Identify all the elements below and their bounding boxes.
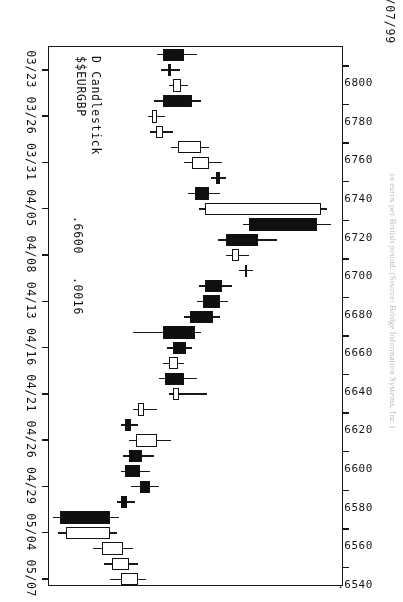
rotated-chart-container: 05/07/99 .6800.6780.6760.6740.6720.6700.… bbox=[0, 0, 403, 602]
candlestick-body bbox=[125, 419, 131, 431]
candlestick-body bbox=[102, 542, 123, 554]
date-tick bbox=[42, 393, 48, 394]
candlestick bbox=[157, 47, 197, 62]
date-tick-label: 04/05 bbox=[24, 189, 38, 227]
price-tick bbox=[343, 297, 349, 298]
price-tick bbox=[343, 490, 349, 491]
candlestick-body bbox=[216, 172, 220, 184]
date-tick bbox=[42, 254, 48, 255]
candlestick bbox=[199, 278, 233, 293]
price-tick bbox=[343, 451, 349, 452]
date-axis: 03/2303/2603/3104/0504/0804/1304/1604/21… bbox=[0, 46, 48, 586]
price-tick bbox=[343, 258, 349, 259]
date-tick bbox=[42, 486, 48, 487]
candlestick-body bbox=[66, 527, 110, 539]
candlestick bbox=[159, 371, 197, 386]
candlestick bbox=[53, 510, 118, 525]
candlestick-wick bbox=[148, 116, 165, 118]
candlestick bbox=[93, 541, 133, 556]
candlestick-body bbox=[205, 280, 222, 292]
candlestick-body bbox=[136, 434, 157, 446]
date-tick-label: 04/26 bbox=[24, 421, 38, 459]
price-tick bbox=[343, 220, 349, 221]
candlestick bbox=[211, 170, 226, 185]
instrument-legend: D Candlestick $$EURGBP bbox=[73, 56, 103, 155]
candlestick bbox=[199, 201, 328, 216]
date-tick-label: 04/29 bbox=[24, 467, 38, 505]
price-tick bbox=[343, 567, 349, 568]
candlestick bbox=[117, 494, 136, 509]
scanned-chart-page: 05/07/99 .6800.6780.6760.6740.6720.6700.… bbox=[0, 0, 403, 602]
date-tick bbox=[42, 578, 48, 579]
candlestick-body bbox=[163, 49, 184, 61]
candlestick bbox=[123, 448, 155, 463]
date-tick-label: 04/13 bbox=[24, 282, 38, 320]
candlestick bbox=[133, 325, 200, 340]
last-price-value: .6600 bbox=[71, 216, 85, 254]
date-tick-label: 04/21 bbox=[24, 374, 38, 412]
date-tick-label: 04/08 bbox=[24, 235, 38, 273]
candlestick-body bbox=[165, 373, 184, 385]
candlestick-body bbox=[152, 110, 156, 122]
candlestick bbox=[121, 417, 138, 432]
candlestick bbox=[243, 217, 332, 232]
price-tick bbox=[343, 181, 349, 182]
date-tick bbox=[42, 439, 48, 440]
candlestick bbox=[197, 294, 229, 309]
candlestick bbox=[131, 479, 158, 494]
candlestick-body bbox=[178, 141, 201, 153]
candlestick bbox=[58, 525, 117, 540]
candlestick bbox=[169, 386, 207, 401]
price-tick bbox=[343, 142, 349, 143]
date-tick bbox=[42, 301, 48, 302]
candlestick bbox=[104, 556, 138, 571]
candlestick bbox=[163, 356, 184, 371]
date-tick bbox=[42, 115, 48, 116]
candlestick bbox=[133, 402, 156, 417]
candlestick bbox=[218, 232, 277, 247]
date-tick bbox=[42, 208, 48, 209]
price-change-value: .0016 bbox=[71, 277, 85, 315]
legend-study-label: D Candlestick bbox=[88, 56, 103, 155]
candlestick bbox=[188, 186, 220, 201]
price-tick bbox=[343, 412, 349, 413]
date-tick-label: 05/07 bbox=[24, 559, 38, 597]
candlestick-body bbox=[129, 450, 142, 462]
date-tick-label: 03/31 bbox=[24, 143, 38, 181]
legend-symbol-label: $$EURGBP bbox=[73, 56, 88, 155]
price-tick bbox=[343, 374, 349, 375]
candlestick bbox=[148, 109, 165, 124]
candlestick-body bbox=[226, 234, 258, 246]
price-tick bbox=[343, 528, 349, 529]
price-tick bbox=[343, 65, 349, 66]
date-tick-label: 03/26 bbox=[24, 97, 38, 135]
price-tick bbox=[343, 335, 349, 336]
candlestick-body bbox=[190, 311, 213, 323]
candlestick-body bbox=[169, 357, 177, 369]
candlestick-body bbox=[121, 573, 138, 585]
candlestick-body bbox=[168, 64, 171, 76]
candlestick bbox=[161, 62, 180, 77]
candlestick bbox=[110, 572, 146, 587]
candlestick bbox=[150, 124, 173, 139]
candlestick-body bbox=[163, 95, 193, 107]
candlestick bbox=[167, 340, 192, 355]
price-tick bbox=[343, 104, 349, 105]
date-tick-label: 04/16 bbox=[24, 328, 38, 366]
candlestick bbox=[129, 433, 171, 448]
candlestick bbox=[239, 263, 254, 278]
date-tick bbox=[42, 69, 48, 70]
candlestick-body bbox=[205, 203, 321, 215]
candlestick bbox=[171, 140, 209, 155]
date-tick bbox=[42, 532, 48, 533]
date-tick-label: 05/04 bbox=[24, 513, 38, 551]
candlestick-body bbox=[121, 496, 127, 508]
date-tick bbox=[42, 162, 48, 163]
candlestick-body bbox=[232, 249, 238, 261]
candlestick bbox=[154, 93, 200, 108]
candlestick bbox=[121, 464, 151, 479]
candlestick-body bbox=[163, 326, 195, 338]
candlestick-body bbox=[192, 157, 209, 169]
candlestick-body bbox=[173, 79, 180, 91]
candlestick-body bbox=[173, 342, 186, 354]
